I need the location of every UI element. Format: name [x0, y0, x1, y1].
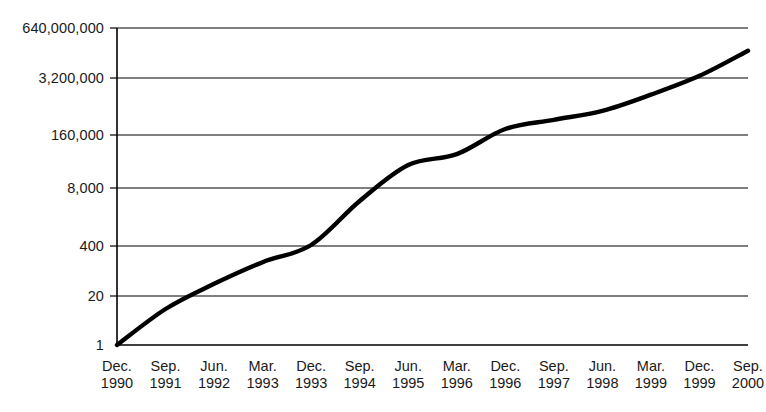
x-tick-label: Dec.1999: [683, 358, 715, 392]
x-tick-year: 1993: [295, 375, 327, 392]
x-tick-label: Dec.1996: [489, 358, 521, 392]
y-tick-label: 20: [0, 289, 104, 304]
x-tick-year: 1996: [489, 375, 521, 392]
y-tick-label: 400: [0, 239, 104, 254]
x-tick-label: Jun.1995: [392, 358, 424, 392]
y-tick-label: 1: [0, 338, 104, 353]
x-tick-month: Mar.: [246, 358, 278, 375]
x-tick-year: 1991: [149, 375, 181, 392]
y-tick-label: 3,200,000: [0, 71, 104, 86]
x-tick-year: 1996: [441, 375, 473, 392]
x-tick-label: Mar.1996: [441, 358, 473, 392]
x-tick-year: 1992: [198, 375, 230, 392]
x-tick-label: Jun.1998: [586, 358, 618, 392]
chart-canvas: [0, 0, 766, 412]
x-tick-label: Sep.2000: [732, 358, 764, 392]
x-tick-month: Dec.: [683, 358, 715, 375]
x-tick-month: Sep.: [732, 358, 764, 375]
y-tick-label: 640,000,000: [0, 21, 104, 36]
x-tick-year: 1994: [344, 375, 376, 392]
x-tick-year: 2000: [732, 375, 764, 392]
gridlines: [117, 28, 748, 345]
x-tick-year: 1999: [635, 375, 667, 392]
x-tick-month: Jun.: [392, 358, 424, 375]
x-tick-month: Sep.: [538, 358, 570, 375]
x-tick-label: Sep.1994: [344, 358, 376, 392]
x-tick-month: Sep.: [344, 358, 376, 375]
x-tick-year: 1993: [246, 375, 278, 392]
x-tick-label: Dec.1993: [295, 358, 327, 392]
x-tick-month: Sep.: [149, 358, 181, 375]
x-tick-label: Jun.1992: [198, 358, 230, 392]
x-tick-year: 1997: [538, 375, 570, 392]
x-tick-year: 1995: [392, 375, 424, 392]
x-tick-month: Dec.: [295, 358, 327, 375]
x-tick-label: Sep.1997: [538, 358, 570, 392]
x-tick-month: Mar.: [635, 358, 667, 375]
y-tick-label: 8,000: [0, 181, 104, 196]
data-series-line: [117, 51, 748, 345]
x-tick-year: 1998: [586, 375, 618, 392]
x-tick-month: Dec.: [101, 358, 133, 375]
x-tick-label: Mar.1993: [246, 358, 278, 392]
log-growth-line-chart: 640,000,0003,200,000160,0008,000400201 D…: [0, 0, 766, 412]
x-tick-label: Mar.1999: [635, 358, 667, 392]
x-tick-month: Mar.: [441, 358, 473, 375]
x-tick-month: Jun.: [198, 358, 230, 375]
y-axis-ticks: [110, 28, 117, 296]
y-tick-label: 160,000: [0, 128, 104, 143]
x-tick-year: 1999: [683, 375, 715, 392]
x-tick-month: Jun.: [586, 358, 618, 375]
x-tick-month: Dec.: [489, 358, 521, 375]
x-tick-label: Sep.1991: [149, 358, 181, 392]
x-tick-year: 1990: [101, 375, 133, 392]
x-tick-label: Dec.1990: [101, 358, 133, 392]
